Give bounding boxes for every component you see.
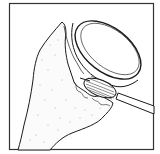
illustration-svg: [0, 0, 160, 154]
illustration-canvas: [0, 0, 160, 154]
